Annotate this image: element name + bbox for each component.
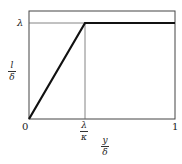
y-label-denominator: δ	[9, 73, 14, 82]
y-tick-lambda: λ	[17, 18, 23, 28]
x-label-denominator: δ	[102, 148, 107, 157]
axes-frame	[29, 11, 175, 119]
y-axis-label: l δ	[8, 61, 16, 82]
origin-tick: 0	[22, 122, 28, 132]
x-axis-label: y δ	[101, 136, 109, 157]
x-tick-numerator: λ	[81, 121, 87, 130]
mixing-length-curve	[29, 23, 175, 119]
x-label-numerator: y	[102, 136, 107, 145]
plot-area	[0, 0, 182, 164]
y-label-numerator: l	[11, 61, 14, 70]
x-tick-denominator: κ	[81, 133, 87, 142]
x-tick-lambda-over-kappa: λ κ	[80, 121, 88, 142]
x-tick-one: 1	[172, 122, 178, 132]
